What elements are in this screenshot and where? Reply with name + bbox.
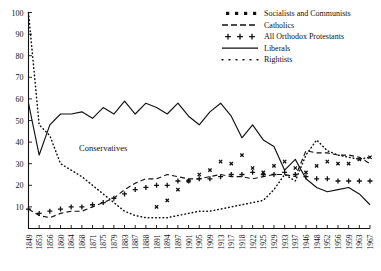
data-point-marker	[271, 172, 276, 177]
x-axis-tick-label: 1959	[345, 234, 354, 249]
x-axis-tick-label: 1887	[131, 234, 140, 249]
x-axis-tick-label: 1925	[259, 234, 268, 249]
x-axis-tick-label: 1946	[302, 234, 311, 249]
x-axis-tick-label: 1948	[313, 234, 322, 249]
series-line	[29, 151, 371, 218]
x-axis-tick-label: 1856	[46, 234, 55, 249]
x-axis-tick-label: 1967	[366, 234, 375, 249]
chart-container: 1020304050607080901001849185318561860186…	[0, 0, 381, 271]
x-axis-tick-label: 1933	[281, 234, 290, 249]
legend-swatch-square	[244, 12, 247, 15]
x-axis-tick-label: 1913	[217, 234, 226, 249]
legend-swatch-square	[235, 12, 238, 15]
x-axis-tick-label: 1897	[174, 234, 183, 249]
annotation-conservatives: Conservatives	[79, 143, 127, 153]
x-axis-tick-label: 1917	[227, 234, 236, 249]
x-axis-tick-label: 1894	[163, 234, 172, 249]
x-axis-tick-label: 1952	[323, 234, 332, 249]
data-point-marker	[368, 178, 373, 183]
x-axis-tick-label: 1918	[238, 234, 247, 249]
data-point-marker	[153, 204, 160, 211]
x-axis-tick-label: 1901	[185, 234, 194, 249]
data-point-marker	[207, 167, 214, 174]
y-axis-tick-label: 50	[16, 117, 24, 126]
x-axis-tick-label: 1909	[206, 234, 215, 249]
data-point-marker	[313, 163, 320, 170]
legend-swatch-square	[226, 12, 229, 15]
legend-label: Liberals	[264, 44, 290, 53]
legend-item: All Orthodox Protestants	[225, 32, 344, 41]
data-point-marker	[122, 191, 127, 196]
data-point-marker	[217, 158, 224, 165]
data-point-marker	[314, 176, 319, 181]
legend-label: Socialists and Communists	[264, 9, 351, 18]
x-axis-tick-label: 1879	[110, 234, 119, 249]
x-axis-tick-label: 1860	[57, 234, 66, 249]
data-point-marker	[197, 176, 202, 181]
x-axis-tick-label: 1875	[99, 234, 108, 249]
legend-label: All Orthodox Protestants	[264, 32, 344, 41]
data-point-marker	[346, 178, 351, 183]
series-catholics	[29, 151, 371, 218]
y-axis-tick-label: 40	[16, 138, 24, 147]
legend-swatch-square	[253, 12, 256, 15]
x-axis-tick-label: 1956	[334, 234, 343, 249]
series-rightists	[29, 13, 371, 218]
data-point-marker	[47, 209, 52, 214]
series-line	[29, 13, 371, 218]
data-point-marker	[249, 34, 255, 40]
y-axis-tick-label: 70	[16, 73, 24, 82]
x-axis-tick-label: 1849	[25, 234, 34, 249]
y-axis-tick-label: 100	[12, 9, 24, 18]
x-axis-tick-label: 1963	[355, 234, 364, 249]
data-point-marker	[175, 178, 180, 183]
x-axis-tick-label: 1888	[142, 234, 151, 249]
x-axis-tick-label: 1868	[78, 234, 87, 249]
data-point-marker	[228, 160, 235, 167]
data-point-marker	[143, 185, 148, 190]
data-point-marker	[271, 163, 278, 170]
y-axis-tick-label: 80	[16, 52, 24, 61]
x-axis-tick-label: 1871	[89, 234, 98, 249]
legend-item: Catholics	[222, 21, 294, 30]
data-point-marker	[133, 187, 138, 192]
y-axis-tick-label: 30	[16, 160, 24, 169]
legend-label: Rightists	[264, 55, 292, 64]
y-axis-tick-label: 10	[16, 203, 24, 212]
y-axis-tick-label: 90	[16, 30, 24, 39]
data-point-marker	[335, 178, 340, 183]
data-point-marker	[357, 178, 362, 183]
election-share-line-chart: 1020304050607080901001849185318561860186…	[0, 0, 381, 271]
legend-label: Catholics	[264, 21, 294, 30]
x-axis-tick-label: 1853	[35, 234, 44, 249]
data-point-marker	[237, 34, 243, 40]
x-axis-tick-label: 1922	[249, 234, 258, 249]
data-point-marker	[225, 34, 231, 40]
data-point-marker	[101, 200, 106, 205]
data-point-marker	[154, 183, 159, 188]
x-axis-tick-label: 1864	[67, 234, 76, 249]
data-point-marker	[325, 176, 330, 181]
x-axis-tick-label: 1891	[153, 234, 162, 249]
series-all-orthodox-protestants	[26, 170, 373, 216]
x-axis-tick-label: 1905	[195, 234, 204, 249]
chart-axes	[29, 12, 371, 229]
data-point-marker	[239, 152, 246, 159]
data-point-marker	[79, 204, 84, 209]
y-axis-tick-label: 60	[16, 95, 24, 104]
y-axis-tick-label: 20	[16, 181, 24, 190]
x-axis-tick-label: 1929	[270, 234, 279, 249]
legend-item: Socialists and Communists	[226, 9, 351, 18]
legend-item: Liberals	[222, 44, 290, 53]
data-point-marker	[165, 183, 170, 188]
data-point-marker	[58, 207, 63, 212]
data-point-marker	[250, 170, 255, 175]
x-axis-tick-label: 1883	[121, 234, 130, 249]
data-point-marker	[324, 158, 331, 165]
data-point-marker	[69, 204, 74, 209]
x-axis-tick-label: 1937	[291, 234, 300, 249]
legend-item: Rightists	[222, 55, 292, 64]
